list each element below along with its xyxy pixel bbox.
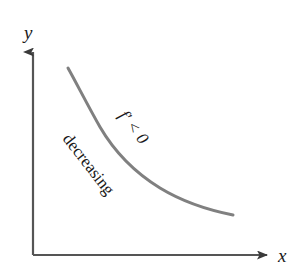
- figure-canvas: y x f′ < 0 decreasing: [0, 0, 299, 279]
- derivative-decreasing-figure: y x f′ < 0 decreasing: [0, 0, 299, 279]
- y-axis-label: y: [22, 22, 33, 43]
- function-curve: [68, 68, 233, 215]
- derivative-condition-label: f′ < 0: [115, 107, 153, 148]
- x-axis-label: x: [277, 245, 287, 266]
